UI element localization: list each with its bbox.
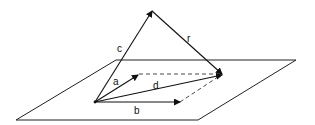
label-b: b xyxy=(134,105,140,116)
vector-diagram: c r a d b xyxy=(0,0,315,125)
label-a: a xyxy=(113,76,119,87)
label-c: c xyxy=(117,43,122,54)
label-r: r xyxy=(187,33,191,44)
label-d: d xyxy=(153,80,159,91)
vector-c xyxy=(95,11,152,102)
origin-point xyxy=(94,101,97,104)
